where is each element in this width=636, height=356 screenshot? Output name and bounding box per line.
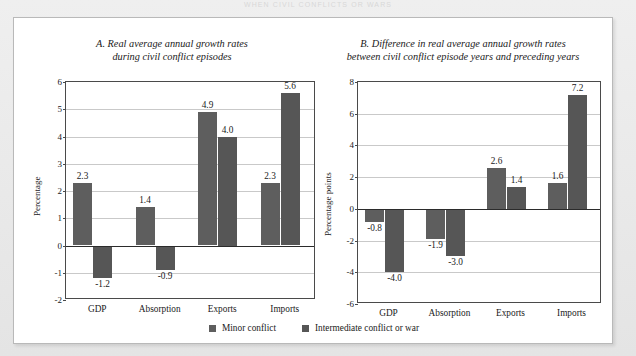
bar-imports-series1 <box>548 183 567 208</box>
chart-b-ytick-label: -4 <box>347 267 355 277</box>
legend-item-1[interactable]: Minor conflict <box>209 323 276 333</box>
legend-label: Minor conflict <box>222 323 276 333</box>
chart-a-title-line2: during civil conflict episodes <box>22 51 322 64</box>
value-label: -1.2 <box>90 279 116 289</box>
legend-swatch-icon <box>302 325 309 332</box>
chart-a-ytick-label: 5 <box>58 104 63 114</box>
chart-a-y-axis-label: Percentage <box>32 177 42 216</box>
chart-a-ytick-label: 4 <box>58 132 63 142</box>
chart-b-panel: B. Difference in real average annual gro… <box>317 26 609 326</box>
chart-b-ytick-label: -2 <box>347 236 355 246</box>
value-label: 1.6 <box>545 171 571 181</box>
zero-line <box>66 246 314 247</box>
legend-label: Intermediate conflict or war <box>315 323 419 333</box>
value-label: 4.0 <box>215 125 241 135</box>
value-label: 2.3 <box>70 171 96 181</box>
value-label: 5.6 <box>277 81 303 91</box>
zero-line <box>358 209 600 210</box>
tick-mark <box>63 300 66 301</box>
value-label: 7.2 <box>565 83 591 93</box>
bar-gdp-series2 <box>385 209 404 272</box>
bar-gdp-series1 <box>365 209 384 222</box>
chart-b-ytick-label: 6 <box>350 109 355 119</box>
chart-a-plot-area: 6543210-1-22.3-1.2GDP1.4-0.9Absorption4.… <box>65 81 315 299</box>
bar-imports-series2 <box>568 95 587 209</box>
bar-group: -1.9-3.0Absorption <box>419 82 480 302</box>
page-canvas: WHEN CIVIL CONFLICTS OR WARS A. Real ave… <box>0 0 636 356</box>
x-axis-label-imports: Imports <box>245 304 325 314</box>
tick-mark <box>355 304 358 305</box>
chart-a-ytick-label: 3 <box>58 159 63 169</box>
figure-panel: A. Real average annual growth rates duri… <box>13 17 613 344</box>
bar-group: 2.61.4Exports <box>480 82 541 302</box>
value-label: -0.9 <box>152 271 178 281</box>
chart-b-title-line1: B. Difference in real average annual gro… <box>317 38 609 51</box>
chart-a-title: A. Real average annual growth rates duri… <box>22 38 322 63</box>
chart-b-title-line2: between civil conflict episode years and… <box>317 51 609 64</box>
chart-b-ytick-label: 4 <box>350 140 355 150</box>
bar-group: 1.4-0.9Absorption <box>129 82 192 298</box>
chart-legend: Minor conflictIntermediate conflict or w… <box>14 323 614 333</box>
bar-absorption-series2 <box>446 209 465 257</box>
bar-group: 2.3-1.2GDP <box>66 82 129 298</box>
legend-swatch-icon <box>209 325 216 332</box>
bar-absorption-series2 <box>156 246 175 271</box>
chart-b-ytick-label: 2 <box>350 172 355 182</box>
value-label: -4.0 <box>382 273 408 283</box>
bar-absorption-series1 <box>426 209 445 239</box>
bar-group: 1.67.2Imports <box>541 82 602 302</box>
value-label: 1.4 <box>132 195 158 205</box>
bar-group: 4.94.0Exports <box>191 82 254 298</box>
chart-a-ytick-label: -1 <box>55 268 63 278</box>
chart-a-title-line1: A. Real average annual growth rates <box>22 38 322 51</box>
value-label: 2.3 <box>257 171 283 181</box>
chart-a-panel: A. Real average annual growth rates duri… <box>22 26 322 326</box>
chart-a-ytick-label: 0 <box>58 241 63 251</box>
chart-b-ytick-label: 0 <box>350 204 355 214</box>
value-label: 2.6 <box>484 156 510 166</box>
bar-exports-series2 <box>507 187 526 209</box>
chart-b-ytick-label: 8 <box>350 77 355 87</box>
x-axis-label-imports: Imports <box>532 308 612 318</box>
bar-imports-series1 <box>261 183 280 246</box>
bar-imports-series2 <box>281 93 300 246</box>
value-label: -1.9 <box>423 240 449 250</box>
chart-b-y-axis-label: Percentage points <box>323 172 333 236</box>
bar-group: 2.35.6Imports <box>254 82 317 298</box>
bar-gdp-series1 <box>73 183 92 246</box>
bar-absorption-series1 <box>136 207 155 245</box>
legend-item-2[interactable]: Intermediate conflict or war <box>302 323 419 333</box>
chart-b-plot-area: 86420-2-4-6-0.8-4.0GDP-1.9-3.0Absorption… <box>357 81 601 303</box>
value-label: -0.8 <box>362 223 388 233</box>
value-label: 1.4 <box>504 175 530 185</box>
running-header: WHEN CIVIL CONFLICTS OR WARS <box>0 0 636 9</box>
bar-gdp-series2 <box>93 246 112 279</box>
value-label: 4.9 <box>195 100 221 110</box>
bar-group: -0.8-4.0GDP <box>358 82 419 302</box>
value-label: -3.0 <box>443 257 469 267</box>
chart-a-ytick-label: 2 <box>58 186 63 196</box>
chart-a-ytick-label: 1 <box>58 213 63 223</box>
bar-exports-series2 <box>218 137 237 246</box>
chart-a-ytick-label: 6 <box>58 77 63 87</box>
chart-b-title: B. Difference in real average annual gro… <box>317 38 609 63</box>
